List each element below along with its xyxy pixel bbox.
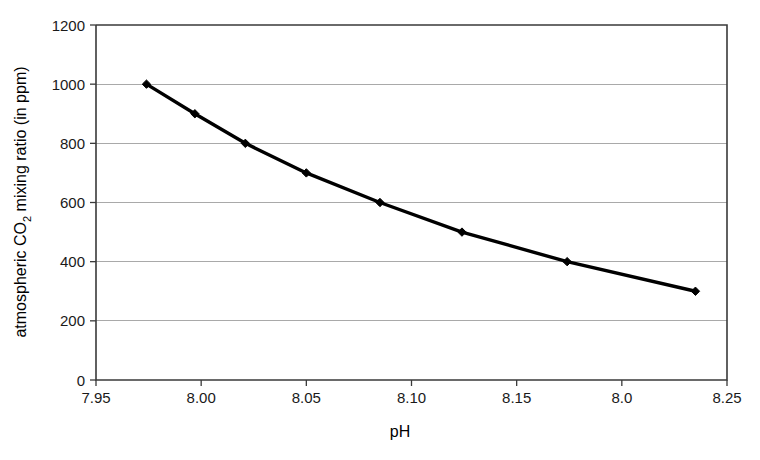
x-tick-label: 8.0: [611, 389, 632, 406]
x-tick-label: 8.00: [187, 389, 216, 406]
y-tick-label: 1000: [52, 76, 85, 93]
y-axis-title-after: mixing ratio (in ppm): [12, 66, 29, 215]
y-tick-label: 800: [60, 135, 85, 152]
x-tick-label: 7.95: [81, 389, 110, 406]
x-tick-label: 8.10: [397, 389, 426, 406]
y-tick-label: 0: [77, 372, 85, 389]
line-chart: 020040060080010001200 7.958.008.058.108.…: [0, 0, 760, 460]
y-tick-label: 200: [60, 312, 85, 329]
chart-figure: 020040060080010001200 7.958.008.058.108.…: [0, 0, 760, 460]
y-tick-label: 1200: [52, 17, 85, 34]
y-tick-label: 600: [60, 194, 85, 211]
y-axis-title-before: atmospheric CO: [12, 222, 29, 338]
x-tick-label: 8.15: [502, 389, 531, 406]
y-tick-label: 400: [60, 253, 85, 270]
x-tick-label: 8.05: [292, 389, 321, 406]
x-tick-label: 8.25: [712, 389, 741, 406]
x-axis-title: pH: [390, 423, 410, 440]
chart-background: [0, 0, 760, 460]
